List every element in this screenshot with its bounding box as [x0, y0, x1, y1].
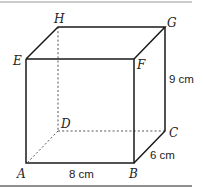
vertex-label-B: B	[128, 167, 138, 181]
edge-DA	[28, 131, 58, 162]
vertex-label-A: A	[16, 167, 26, 181]
width-label: 6 cm	[150, 149, 175, 161]
cuboid-diagram: H G E F D C A B 9 cm 6 cm 8 cm	[0, 0, 203, 188]
vertex-label-D: D	[60, 117, 71, 131]
length-label: 8 cm	[69, 168, 94, 180]
vertex-label-H: H	[53, 12, 65, 26]
visible-edges	[26, 27, 165, 163]
top-face	[26, 27, 165, 59]
vertex-label-G: G	[167, 16, 177, 30]
vertex-label-C: C	[169, 126, 178, 140]
right-face-edges	[134, 27, 165, 163]
vertex-label-F: F	[136, 58, 146, 72]
height-label: 9 cm	[169, 73, 194, 85]
vertex-label-E: E	[12, 54, 22, 68]
